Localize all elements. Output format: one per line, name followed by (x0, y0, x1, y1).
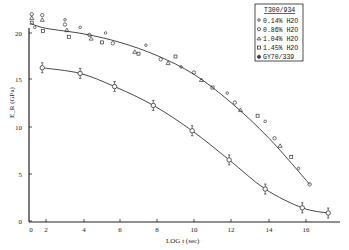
x-tick-label: 6 (118, 226, 122, 234)
x-axis-label: LOG t (sec) (166, 237, 200, 245)
lower-fit-curve (42, 68, 328, 213)
chart-canvas: 0246810121416 05101520 LOG t (sec) E_R (… (0, 0, 349, 250)
y-tick-label: 15 (15, 76, 23, 84)
y-axis-label: E_R (GPa) (8, 86, 16, 118)
x-tick-label: 14 (266, 226, 274, 234)
y-tick-label: 0 (19, 218, 23, 226)
x-tick-label: 2 (44, 226, 48, 234)
legend-title: T300/934 (264, 7, 295, 14)
legend: T300/934 0.14% H2O0.86% H2O1.04% H2O1.45… (255, 4, 303, 61)
x-tick-label: 4 (82, 226, 86, 234)
x-tick-label: 8 (155, 226, 159, 234)
x-ticks: 0246810121416 (29, 219, 310, 234)
legend-entry: 1.45% H2O (263, 45, 298, 52)
y-tick-label: 10 (15, 124, 23, 132)
x-tick-label: 16 (303, 226, 311, 234)
legend-entry: 0.86% H2O (263, 27, 298, 34)
legend-entry: GY70/339 (263, 54, 294, 61)
x-tick-label: 0 (29, 226, 33, 234)
x-tick-label: 12 (228, 226, 236, 234)
y-tick-label: 20 (15, 30, 23, 38)
y-tick-label: 5 (19, 171, 23, 179)
legend-entry: 0.14% H2O (263, 18, 298, 25)
x-tick-label: 10 (191, 226, 199, 234)
legend-entry: 1.04% H2O (263, 36, 298, 43)
